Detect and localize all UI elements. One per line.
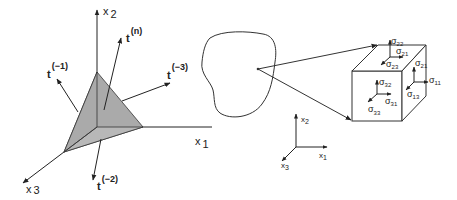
traction-minus1-arrow [57,79,78,112]
small-x3-label: x3 [281,161,289,171]
x1-label: x1 [195,135,209,150]
small-axes: x2 x1 x3 [281,114,327,171]
stress-cube: σ22 σ21 σ23 σ21 σ11 σ13 σ32 σ31 σ33 [352,36,441,121]
x2-label: x2 [103,5,117,20]
small-x2-label: x2 [301,115,309,125]
traction-minus1-label: t(−1) [47,61,68,80]
small-x1-label: x1 [319,151,327,161]
stress-diagram: x2 x1 x3 t(n) t(−1) t(−3) t(−2) x2 x1 x3 [0,0,457,200]
traction-minus3-label: t(−3) [167,62,188,81]
x3-label: x3 [26,183,40,196]
svg-text:σ11: σ11 [429,75,441,86]
zoom-line-bottom [258,69,351,120]
tetra-face-slant [64,72,143,152]
body-outline [202,32,276,117]
traction-minus2-arrow [93,139,101,180]
traction-n-label: t(n) [126,26,142,44]
traction-minus3-arrow [122,83,170,101]
body-figure [202,32,377,120]
traction-minus2-label: t(−2) [97,174,118,192]
tetrahedron-figure: x2 x1 x3 t(n) t(−1) t(−3) t(−2) [23,5,212,196]
